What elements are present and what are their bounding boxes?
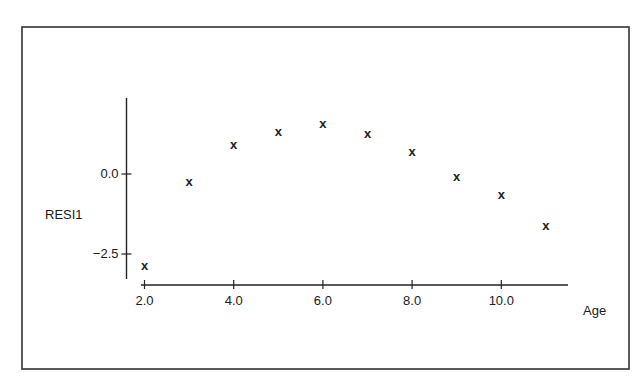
y-tick-label: 0.0: [100, 167, 118, 180]
residual-plot-figure: 0.0−2.52.04.06.08.010.0xxxxxxxxxx RESI1 …: [0, 0, 644, 392]
data-point-marker: x: [498, 188, 505, 201]
data-point-marker: x: [230, 138, 237, 151]
chart-frame: [22, 27, 629, 369]
data-point-marker: x: [185, 175, 192, 188]
x-tick-label: 6.0: [314, 294, 332, 307]
x-tick-label: 2.0: [135, 294, 153, 307]
x-tick-label: 10.0: [489, 294, 514, 307]
data-point-marker: x: [542, 219, 549, 232]
data-point-marker: x: [453, 170, 460, 183]
data-point-marker: x: [141, 259, 148, 272]
x-tick-label: 8.0: [403, 294, 421, 307]
y-tick-label: −2.5: [93, 247, 119, 260]
data-point-marker: x: [408, 145, 415, 158]
data-point-marker: x: [319, 117, 326, 130]
chart-canvas: [0, 0, 644, 392]
x-axis-label: Age: [583, 304, 606, 317]
y-axis-label: RESI1: [45, 208, 83, 221]
x-tick-label: 4.0: [225, 294, 243, 307]
data-point-marker: x: [275, 125, 282, 138]
data-point-marker: x: [364, 127, 371, 140]
